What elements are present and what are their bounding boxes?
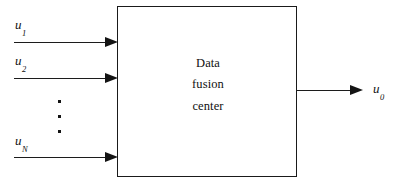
output-arrow-u0: [296, 84, 364, 98]
input-label-u1-subscript: 1: [22, 28, 26, 38]
input-label-uN-base: u: [15, 133, 22, 148]
input-label-u2: u2: [15, 54, 26, 67]
ellipsis-dot: [58, 130, 61, 133]
arrow-shaft: [296, 90, 351, 91]
input-label-u2-subscript: 2: [22, 64, 26, 74]
ellipsis-dot: [58, 100, 61, 103]
input-label-uN: uN: [15, 134, 28, 147]
input-label-u1-base: u: [15, 17, 22, 32]
arrow-shaft: [14, 78, 106, 79]
input-arrow-uN: [14, 151, 118, 165]
arrow-shaft: [14, 42, 106, 43]
box-label-line-3: center: [118, 100, 298, 113]
box-label-line-2: fusion: [118, 78, 298, 91]
box-label-line-1: Data: [118, 57, 298, 70]
data-fusion-center-box: Data fusion center: [117, 6, 297, 177]
input-arrow-u2: [14, 72, 118, 86]
input-arrow-u1: [14, 36, 118, 50]
arrow-shaft: [14, 157, 106, 158]
output-label-u0: u0: [373, 82, 384, 95]
input-label-u1: u1: [15, 18, 26, 31]
input-label-u2-base: u: [15, 53, 22, 68]
arrowhead-icon: [350, 85, 363, 95]
input-label-uN-subscript: N: [22, 144, 28, 154]
diagram-canvas: Data fusion center u1 u2 uN u0: [0, 0, 410, 194]
output-label-u0-subscript: 0: [380, 92, 384, 102]
vertical-ellipsis: [58, 98, 64, 138]
ellipsis-dot: [58, 115, 61, 118]
output-label-u0-base: u: [373, 81, 380, 96]
